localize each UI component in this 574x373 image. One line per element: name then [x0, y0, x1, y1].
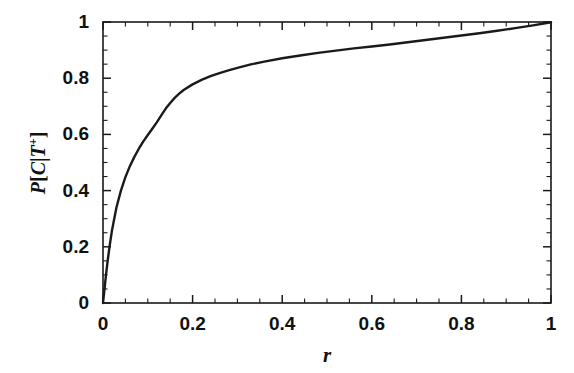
x-tick-label: 1	[546, 313, 557, 335]
x-tick-label: 0.6	[359, 313, 385, 335]
x-tick-label: 0.8	[448, 313, 474, 335]
x-axis-title: r	[323, 343, 331, 368]
y-axis-title-event: C	[27, 161, 49, 174]
x-tick-label: 0	[98, 313, 109, 335]
y-axis-title-prefix: P	[27, 181, 49, 193]
y-axis-title-condition: T	[27, 145, 49, 157]
y-tick-label: 0.8	[0, 67, 89, 89]
y-axis-title-superscript: +	[26, 138, 40, 145]
y-tick-label: 0	[0, 292, 89, 314]
data-series-line	[103, 22, 551, 303]
axis-frame	[103, 22, 551, 303]
y-axis-title-open-bracket: [	[27, 175, 49, 182]
y-axis-title: P[C|T+]	[26, 131, 50, 194]
y-axis-title-bar: |	[27, 157, 49, 161]
y-tick-label: 0.2	[0, 236, 89, 258]
x-tick-label: 0.2	[179, 313, 205, 335]
axis-ticks	[103, 22, 551, 303]
y-tick-label: 1	[0, 11, 89, 33]
figure-panel: 00.20.40.60.81 00.20.40.60.81 r P[C|T+]	[0, 0, 574, 373]
x-tick-label: 0.4	[269, 313, 295, 335]
y-axis-title-close-bracket: ]	[27, 131, 49, 138]
